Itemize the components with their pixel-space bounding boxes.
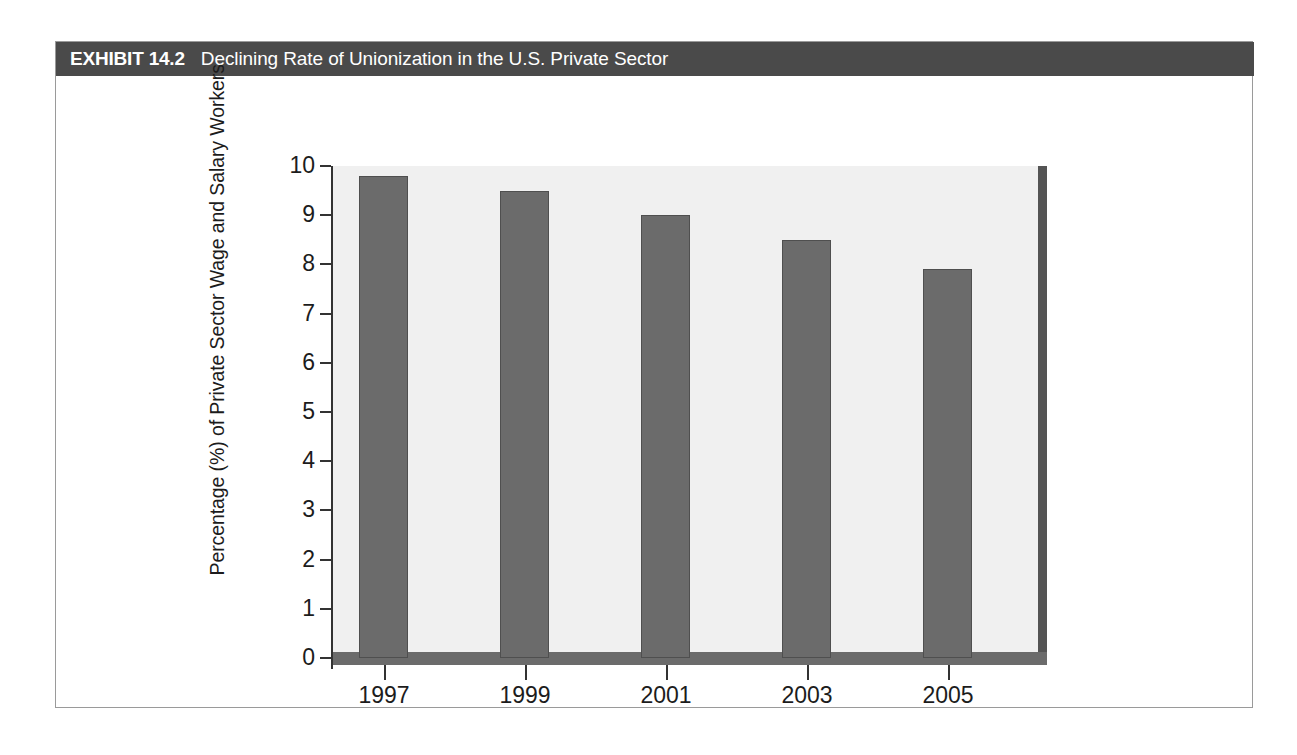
- y-axis-tick-label: 0: [275, 646, 315, 669]
- y-axis-tick-label: 2: [275, 548, 315, 571]
- bar: [641, 215, 690, 658]
- bar: [500, 191, 549, 658]
- x-axis-tick-label: 2001: [606, 684, 726, 707]
- y-axis-title: Percentage (%) of Private Sector Wage an…: [206, 156, 229, 576]
- exhibit-number-label: EXHIBIT 14.2: [70, 48, 185, 70]
- plot-right-shadow: [1038, 166, 1047, 662]
- x-axis-tick-label: 1997: [324, 684, 444, 707]
- y-axis-tick-label: 1: [275, 597, 315, 620]
- x-axis-tick-label: 2003: [747, 684, 867, 707]
- x-axis-tick: [948, 665, 950, 680]
- exhibit-header: EXHIBIT 14.2 Declining Rate of Unionizat…: [56, 42, 1254, 76]
- y-axis-tick-label: 4: [275, 449, 315, 472]
- y-axis-tick: [320, 559, 331, 561]
- y-axis-tick: [320, 657, 331, 659]
- y-axis-tick-label: 3: [275, 498, 315, 521]
- bar: [923, 269, 972, 658]
- y-axis-line: [331, 166, 333, 669]
- x-axis-tick-label: 1999: [465, 684, 585, 707]
- x-axis-tick: [807, 665, 809, 680]
- y-axis-tick: [320, 313, 331, 315]
- y-axis-tick-label: 6: [275, 351, 315, 374]
- bar-chart: Percentage (%) of Private Sector Wage an…: [56, 76, 1254, 708]
- exhibit-title-label: Declining Rate of Unionization in the U.…: [201, 48, 668, 70]
- y-axis-tick-label: 10: [275, 154, 315, 177]
- y-axis-tick-label: 9: [275, 203, 315, 226]
- x-axis-tick: [666, 665, 668, 680]
- exhibit-frame: EXHIBIT 14.2 Declining Rate of Unionizat…: [55, 41, 1253, 708]
- y-axis-tick: [320, 608, 331, 610]
- y-axis-tick: [320, 263, 331, 265]
- y-axis-tick-label: 8: [275, 252, 315, 275]
- y-axis-tick: [320, 362, 331, 364]
- y-axis-tick: [320, 411, 331, 413]
- bar: [359, 176, 408, 658]
- bar: [782, 240, 831, 658]
- y-axis-tick-label: 7: [275, 302, 315, 325]
- x-axis-tick: [384, 665, 386, 680]
- x-axis-tick-label: 2005: [888, 684, 1008, 707]
- y-axis-tick-label: 5: [275, 400, 315, 423]
- y-axis-tick: [320, 509, 331, 511]
- y-axis-tick: [320, 460, 331, 462]
- x-axis-tick: [525, 665, 527, 680]
- y-axis-tick: [320, 165, 331, 167]
- y-axis-tick: [320, 214, 331, 216]
